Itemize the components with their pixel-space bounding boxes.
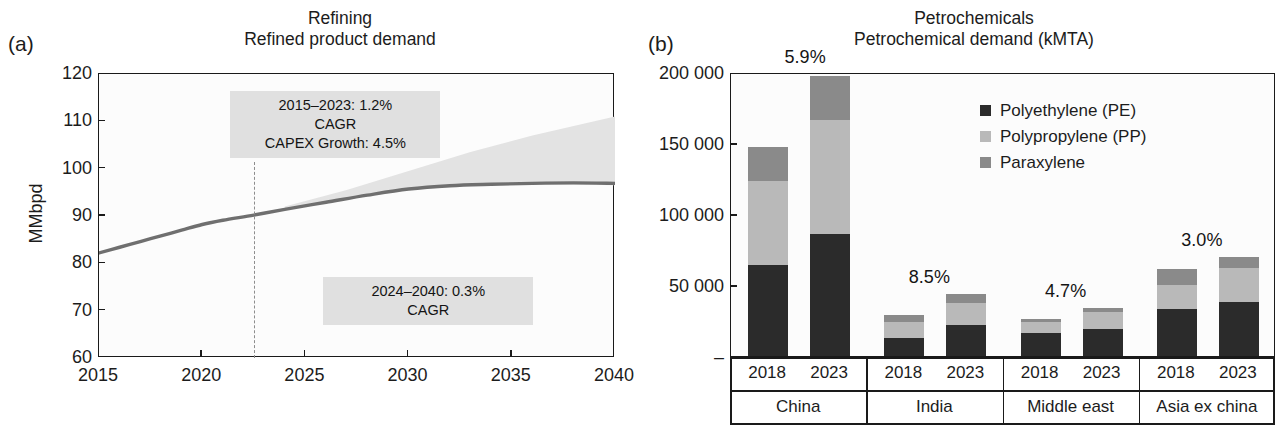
bar-segment-polyethylene-pe [1157,309,1197,356]
legend-item-paraxylene[interactable]: Paraxylene [980,152,1146,173]
bar-segment-polypropylene-pp [946,303,986,324]
bar-segment-polyethylene-pe [1219,302,1259,356]
legend-item-polypropylene-pp[interactable]: Polypropylene (PP) [980,126,1146,147]
bar-segment-polyethylene-pe [748,265,788,356]
bar-segment-paraxylene [884,315,924,322]
bar-segment-polyethylene-pe [884,338,924,356]
y-tick-label-b-150000: 150 000 [636,134,724,155]
bar-segment-paraxylene [946,294,986,304]
legend-swatch-icon [980,131,991,142]
cat-table-bottom-rule [730,423,1275,425]
y-tick-mark-b-50000 [730,285,737,287]
y-tick-label-a-100: 100 [42,157,92,178]
region-label-china: China [776,397,820,417]
x-tick-mark-a-2035 [510,350,512,357]
panel-refining: (a) Refining Refined product demand MMbp… [0,0,644,445]
cat-group-divider-1 [866,357,868,423]
panel-b-title-block: Petrochemicals Petrochemical demand (kMT… [694,8,1254,49]
bar-segment-paraxylene [1021,319,1061,322]
bar-segment-paraxylene [1083,308,1123,312]
bar-segment-polypropylene-pp [810,120,850,234]
bar-china-2018 [748,147,788,356]
y-tick-mark-a-70 [98,309,105,311]
year-label-middle-east-2023: 2023 [1083,363,1121,383]
legend-swatch-icon [980,157,991,168]
year-label-india-2023: 2023 [946,363,984,383]
x-tick-label-a-2015: 2015 [78,365,118,386]
bar-segment-polypropylene-pp [1021,322,1061,333]
panel-a-letter: (a) [8,32,34,56]
bar-china-2023 [810,76,850,356]
bar-segment-polyethylene-pe [946,325,986,356]
x-tick-label-a-2020: 2020 [181,365,221,386]
bar-segment-polyethylene-pe [1083,329,1123,356]
annotation-fwd-cagr: 2024–2040: 0.3% CAGR [323,277,533,325]
legend-label: Paraxylene [1000,153,1085,173]
bar-asia-ex-china-2023 [1219,257,1259,356]
bar-segment-polypropylene-pp [1083,312,1123,329]
annotation-hist-cagr: 2015–2023: 1.2% CAGR CAPEX Growth: 4.5% [230,91,440,158]
y-tick-label-a-120: 120 [42,63,92,84]
bar-segment-paraxylene [810,76,850,120]
y-tick-mark-a-100 [98,167,105,169]
cat-group-divider-3 [1139,357,1141,423]
y-tick-mark-a-110 [98,120,105,122]
bar-segment-polypropylene-pp [1219,268,1259,302]
cat-table-left-rule [730,357,732,423]
legend-label: Polypropylene (PP) [1000,127,1146,147]
bar-india-2018 [884,315,924,356]
region-label-asia-ex-china: Asia ex china [1156,397,1257,417]
year-label-asia-ex-china-2018: 2018 [1157,363,1195,383]
region-label-middle-east: Middle east [1027,397,1114,417]
year-label-india-2018: 2018 [884,363,922,383]
x-tick-mark-a-2025 [304,350,306,357]
y-tick-label-a-110: 110 [42,110,92,131]
bar-segment-polypropylene-pp [1157,285,1197,309]
y-tick-label-b-200000: 200 000 [636,63,724,84]
y-tick-mark-a-80 [98,262,105,264]
cagr-label-asia-ex-china: 3.0% [1181,230,1222,251]
y-tick-mark-a-90 [98,214,105,216]
y-tick-mark-b-100000 [730,214,737,216]
bar-middle-east-2023 [1083,308,1123,356]
x-tick-mark-a-2020 [200,350,202,357]
legend-swatch-icon [980,105,991,116]
year-label-asia-ex-china-2023: 2023 [1219,363,1257,383]
bar-middle-east-2018 [1021,319,1061,356]
x-tick-label-a-2025: 2025 [284,365,324,386]
category-axis-table: 20182023China20182023India20182023Middle… [730,357,1275,423]
year-label-middle-east-2018: 2018 [1021,363,1059,383]
panel-a-title: Refining [60,8,620,29]
bar-india-2023 [946,294,986,356]
y-tick-label-a-90: 90 [42,205,92,226]
y-tick-label-a-80: 80 [42,252,92,273]
panel-b-subtitle: Petrochemical demand (kMTA) [694,29,1254,50]
panel-a-subtitle: Refined product demand [60,29,620,50]
y-tick-label-b-50000: 50 000 [636,276,724,297]
bar-segment-polyethylene-pe [1021,333,1061,356]
bar-asia-ex-china-2018 [1157,269,1197,356]
y-tick-label-a-70: 70 [42,299,92,320]
bar-segment-paraxylene [748,147,788,181]
cat-table-right-rule [1273,357,1275,423]
x-tick-mark-a-2030 [407,350,409,357]
legend-label: Polyethylene (PE) [1000,101,1136,121]
legend-item-polyethylene-pe[interactable]: Polyethylene (PE) [980,100,1146,121]
y-tick-label-b-100000: 100 000 [636,205,724,226]
bar-segment-polypropylene-pp [884,322,924,338]
bar-segment-paraxylene [1157,269,1197,285]
bar-segment-paraxylene [1219,257,1259,268]
y-tick-label-b-0: – [636,347,724,368]
year-label-china-2018: 2018 [748,363,786,383]
year-label-china-2023: 2023 [810,363,848,383]
forecast-divider-line [254,162,255,358]
cagr-label-middle-east: 4.7% [1045,281,1086,302]
region-label-india: India [916,397,953,417]
x-tick-label-a-2030: 2030 [388,365,428,386]
y-tick-mark-b-150000 [730,143,737,145]
cagr-label-india: 8.5% [909,267,950,288]
panel-b-title: Petrochemicals [694,8,1254,29]
x-tick-label-a-2040: 2040 [594,365,634,386]
bar-segment-polyethylene-pe [810,234,850,356]
panel-b-letter: (b) [648,32,674,56]
